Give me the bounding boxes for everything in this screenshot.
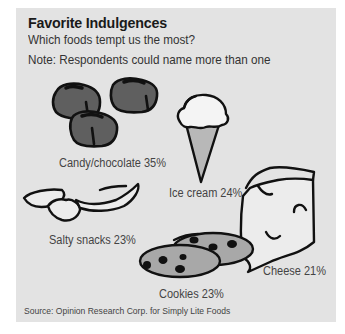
cookies-label: Cookies 23% <box>159 287 224 301</box>
candy-chocolate-icon <box>53 78 157 146</box>
salty-snacks-icon <box>24 184 138 221</box>
cheese-icon <box>241 167 314 272</box>
ice-cream-label: Ice cream 24% <box>169 186 242 200</box>
candy-chocolate-label: Candy/chocolate 35% <box>59 156 166 170</box>
source-note: Source: Opinion Research Corp. for Simpl… <box>24 305 230 316</box>
salty-snacks-label: Salty snacks 23% <box>49 233 136 247</box>
cheese-label: Cheese 21% <box>263 264 326 278</box>
ice-cream-icon <box>178 95 228 182</box>
cookies-icon <box>140 233 253 277</box>
illustrations <box>0 0 345 334</box>
